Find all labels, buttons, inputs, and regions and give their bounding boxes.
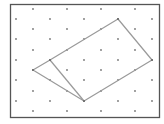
lattice-dot: [66, 110, 68, 112]
lattice-dot: [151, 38, 153, 40]
lattice-dot: [66, 8, 68, 10]
lattice-dot: [117, 38, 119, 40]
lattice-dot: [134, 8, 136, 10]
lattice-dot: [117, 100, 119, 102]
vertex-dot: [32, 69, 34, 71]
lattice-dot: [100, 69, 102, 71]
lattice-dot: [151, 100, 153, 102]
lattice-dot: [15, 59, 17, 61]
lattice-dot: [134, 49, 136, 51]
dot-lattice: [15, 8, 153, 112]
lattice-dot: [151, 79, 153, 81]
lattice-dot: [15, 38, 17, 40]
lattice-dot: [117, 59, 119, 61]
lattice-dot: [15, 18, 17, 20]
vertex-dot: [83, 100, 85, 102]
lattice-dot: [151, 18, 153, 20]
vertex-dot: [151, 59, 153, 61]
lattice-dot: [66, 28, 68, 30]
lattice-dot: [83, 18, 85, 20]
lattice-dot: [49, 100, 51, 102]
lattice-dot: [49, 38, 51, 40]
lattice-dot: [66, 69, 68, 71]
lattice-dot: [32, 8, 34, 10]
lattice-dot: [100, 110, 102, 112]
lattice-dot: [32, 110, 34, 112]
lattice-dot: [134, 90, 136, 92]
vertex-dot: [117, 18, 119, 20]
polygon-shape: [32, 18, 153, 102]
lattice-dot: [32, 28, 34, 30]
lattice-dot: [100, 8, 102, 10]
lattice-dot: [49, 18, 51, 20]
lattice-dot: [134, 110, 136, 112]
lattice-dot: [32, 90, 34, 92]
lattice-dot: [32, 49, 34, 51]
lattice-dot: [83, 79, 85, 81]
lattice-dot: [134, 28, 136, 30]
lattice-dot: [15, 79, 17, 81]
lattice-dot: [15, 100, 17, 102]
lattice-dot: [83, 59, 85, 61]
lattice-dot: [100, 49, 102, 51]
lattice-diagram: [0, 0, 164, 124]
inner-segment: [50, 60, 84, 101]
vertex-dot: [49, 59, 51, 61]
